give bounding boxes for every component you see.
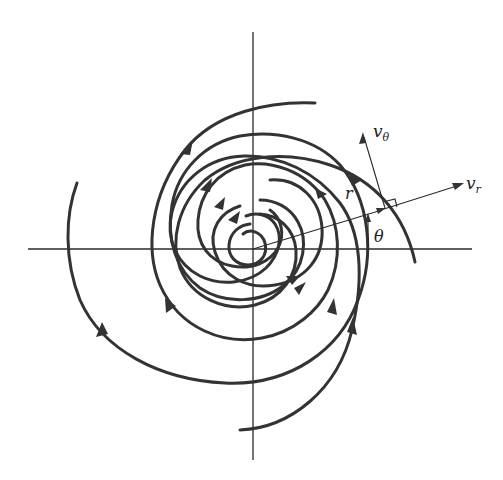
vtheta-label: vθ: [373, 121, 390, 144]
vtheta-vector: [364, 137, 385, 208]
radius-label: r: [345, 184, 354, 203]
vr-label: vr: [466, 173, 482, 196]
spiral-diagram: r θ vr vθ: [0, 0, 503, 480]
theta-label: θ: [374, 227, 384, 246]
arrow-icon: [165, 298, 176, 313]
arrow-icon: [228, 211, 240, 224]
arrow-icon: [315, 188, 327, 199]
vtheta-arrow-icon: [359, 132, 366, 144]
arrow-icon: [294, 282, 306, 295]
trajectory-inner-curl: [229, 224, 266, 265]
arrow-icon: [180, 140, 193, 155]
arrow-icon: [214, 197, 225, 210]
vr-vector: [384, 185, 460, 209]
vr-arrow-icon: [452, 183, 464, 190]
arrow-icon: [327, 298, 337, 315]
